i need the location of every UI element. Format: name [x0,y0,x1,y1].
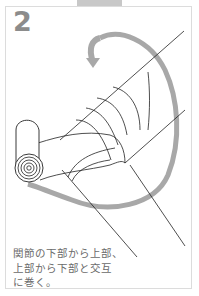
bandage-roll-icon [15,120,43,182]
wrap-direction-arrow-icon [28,35,177,207]
bandage-strip [38,133,125,180]
caption-line: 関節の下部から上部、 [13,246,123,261]
limb-outline [60,31,185,257]
caption-line: に巻く。 [13,275,123,290]
instruction-caption: 関節の下部から上部、 上部から下部と交互 に巻く。 [13,246,123,290]
caption-line: 上部から下部と交互 [13,261,123,276]
